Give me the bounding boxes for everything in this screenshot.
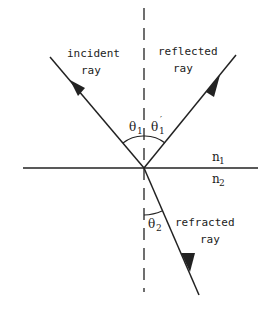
theta1prime-arc [144, 136, 165, 143]
refraction-diagram: incident ray reflected ray refracted ray… [0, 0, 275, 310]
refracted-label-line2: ray [200, 233, 220, 246]
refracted-ray [144, 168, 199, 295]
theta1prime-prime: ′ [160, 115, 162, 125]
n2-subscript: 2 [219, 178, 225, 188]
theta1-arc [123, 136, 144, 143]
incident-label-line1: incident [67, 47, 120, 60]
theta1-symbol: θ [129, 120, 136, 134]
refracted-label-line1: refracted [175, 216, 235, 229]
theta1-subscript: 1 [137, 126, 143, 136]
theta1prime-subscript: 1 [159, 126, 165, 136]
theta2-symbol: θ [148, 217, 155, 231]
incident-arrow-icon [70, 80, 85, 96]
n1-subscript: 1 [219, 156, 225, 166]
theta1prime-symbol: θ [151, 120, 158, 134]
theta2-subscript: 2 [156, 223, 162, 233]
incident-label-line2: ray [81, 64, 101, 77]
reflected-arrow-icon [206, 75, 220, 97]
theta2-arc [144, 211, 162, 215]
reflected-label-line1: reflected [158, 45, 218, 58]
reflected-label-line2: ray [173, 62, 193, 75]
